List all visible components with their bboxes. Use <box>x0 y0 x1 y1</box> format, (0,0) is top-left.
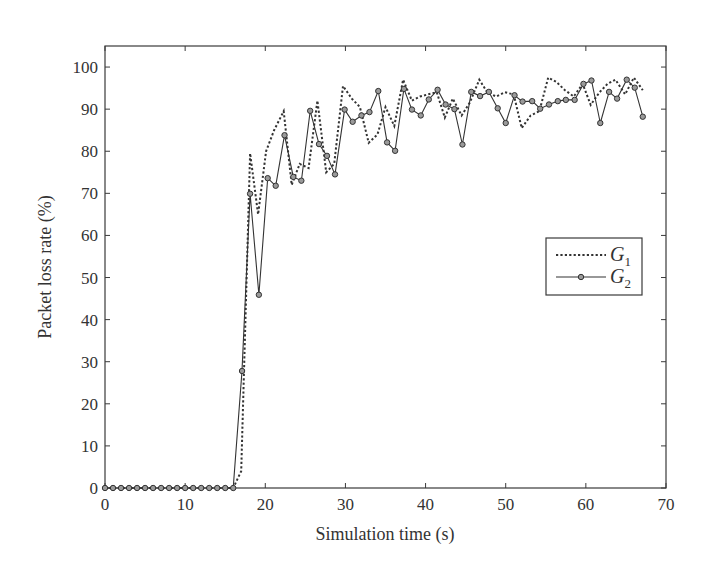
data-point-marker <box>150 485 155 490</box>
data-point-marker <box>102 485 107 490</box>
data-point-marker <box>126 485 131 490</box>
data-point-marker <box>239 368 244 373</box>
data-point-marker <box>110 485 115 490</box>
data-point-marker <box>581 81 586 86</box>
x-tick-label: 30 <box>337 495 354 514</box>
data-point-marker <box>350 119 355 124</box>
data-point-marker <box>342 107 347 112</box>
data-point-marker <box>477 93 482 98</box>
data-point-marker <box>307 108 312 113</box>
x-tick-label: 20 <box>257 495 274 514</box>
data-point-marker <box>443 102 448 107</box>
x-axis-label: Simulation time (s) <box>316 524 455 545</box>
legend: G1G2 <box>546 238 642 295</box>
data-point-marker <box>546 102 551 107</box>
x-tick-label: 60 <box>577 495 594 514</box>
y-tick-label: 30 <box>81 353 98 372</box>
data-point-marker <box>166 485 171 490</box>
x-tick-label: 10 <box>177 495 194 514</box>
data-point-marker <box>376 88 381 93</box>
legend-marker-swatch <box>578 274 583 279</box>
data-point-marker <box>316 141 321 146</box>
y-tick-label: 90 <box>81 100 98 119</box>
data-point-marker <box>435 87 440 92</box>
data-point-marker <box>158 485 163 490</box>
data-point-marker <box>486 89 491 94</box>
y-axis-label: Packet loss rate (%) <box>35 195 56 338</box>
data-point-marker <box>198 485 203 490</box>
data-point-marker <box>632 85 637 90</box>
x-tick-label: 40 <box>417 495 434 514</box>
data-point-marker <box>520 99 525 104</box>
data-point-marker <box>367 109 372 114</box>
data-point-marker <box>589 78 594 83</box>
data-point-marker <box>460 142 465 147</box>
y-tick-label: 70 <box>81 184 98 203</box>
y-tick-label: 100 <box>73 58 99 77</box>
data-point-marker <box>469 89 474 94</box>
data-point-marker <box>640 114 645 119</box>
y-tick-label: 80 <box>81 142 98 161</box>
data-point-marker <box>265 175 270 180</box>
data-point-marker <box>384 140 389 145</box>
data-point-marker <box>324 153 329 158</box>
x-tick-label: 50 <box>497 495 514 514</box>
data-point-marker <box>273 183 278 188</box>
x-tick-label: 0 <box>101 495 110 514</box>
y-tick-label: 10 <box>81 437 98 456</box>
y-tick-label: 40 <box>81 311 98 330</box>
data-point-marker <box>452 106 457 111</box>
data-point-marker <box>426 97 431 102</box>
data-point-marker <box>190 485 195 490</box>
data-point-marker <box>512 93 517 98</box>
data-point-marker <box>624 77 629 82</box>
data-point-marker <box>359 113 364 118</box>
data-point-marker <box>392 148 397 153</box>
y-tick-label: 50 <box>81 269 98 288</box>
data-point-marker <box>606 89 611 94</box>
data-point-marker <box>332 172 337 177</box>
x-tick-label: 70 <box>658 495 675 514</box>
data-point-marker <box>529 98 534 103</box>
data-point-marker <box>291 174 296 179</box>
data-point-marker <box>223 485 228 490</box>
data-point-marker <box>118 485 123 490</box>
data-point-marker <box>495 106 500 111</box>
data-point-marker <box>418 113 423 118</box>
data-point-marker <box>614 96 619 101</box>
data-point-marker <box>182 485 187 490</box>
data-point-marker <box>503 120 508 125</box>
data-point-marker <box>555 98 560 103</box>
data-point-marker <box>409 107 414 112</box>
data-point-marker <box>231 485 236 490</box>
data-point-marker <box>134 485 139 490</box>
data-point-marker <box>206 485 211 490</box>
line-chart: 0102030405060708090100 010203040506070 S… <box>0 0 711 568</box>
data-point-marker <box>598 120 603 125</box>
data-point-marker <box>282 133 287 138</box>
data-point-marker <box>563 97 568 102</box>
data-point-marker <box>401 86 406 91</box>
data-point-marker <box>174 485 179 490</box>
data-point-marker <box>247 191 252 196</box>
data-point-marker <box>142 485 147 490</box>
y-tick-label: 0 <box>90 479 99 498</box>
data-point-marker <box>537 106 542 111</box>
data-point-marker <box>256 292 261 297</box>
data-point-marker <box>572 97 577 102</box>
y-tick-label: 20 <box>81 395 98 414</box>
data-point-marker <box>299 178 304 183</box>
y-tick-label: 60 <box>81 226 98 245</box>
data-point-marker <box>215 485 220 490</box>
